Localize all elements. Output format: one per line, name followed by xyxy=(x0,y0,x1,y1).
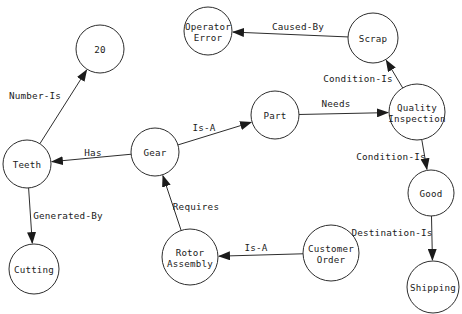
relation-arrow xyxy=(233,32,348,37)
edge-customer-order-to-rotor-assembly: Is-A xyxy=(219,242,303,257)
edge-quality-inspection-to-scrap: Condition-Is xyxy=(323,60,402,88)
relation-label: Condition-Is xyxy=(356,151,426,162)
concept-label: Good xyxy=(420,188,443,199)
node-gear: Gear xyxy=(131,128,179,176)
relation-label: Destination-Is xyxy=(351,227,432,238)
concept-label: Teeth xyxy=(13,159,42,170)
concept-label: 20 xyxy=(94,44,105,55)
concept-label: Cutting xyxy=(14,264,54,275)
concept-label: Part xyxy=(264,110,287,121)
edge-good-to-shipping: Destination-Is xyxy=(351,216,432,260)
relation-arrow xyxy=(431,216,432,260)
concept-label: Gear xyxy=(144,147,167,158)
node-twenty: 20 xyxy=(76,25,124,73)
node-cutting: Cutting xyxy=(9,244,59,294)
edge-part-to-quality-inspection: Needs xyxy=(299,98,388,115)
relation-arrow xyxy=(29,188,33,243)
relation-arrow xyxy=(40,70,87,144)
edge-teeth-to-twenty: Number-Is xyxy=(9,70,87,144)
concept-label: Scrap xyxy=(359,33,388,44)
relation-label: Is-A xyxy=(244,242,267,253)
edge-rotor-assembly-to-gear: Requires xyxy=(163,176,219,231)
node-teeth: Teeth xyxy=(3,140,51,188)
node-quality-inspection: QualityInspection xyxy=(388,84,445,140)
node-part: Part xyxy=(251,91,299,139)
node-scrap: Scrap xyxy=(348,13,398,63)
concept-label: Shipping xyxy=(410,282,456,293)
edge-gear-to-teeth: Has xyxy=(52,147,131,162)
relation-label: Caused-By xyxy=(272,21,324,32)
edge-gear-to-part: Is-A xyxy=(178,122,251,145)
node-customer-order: CustomerOrder xyxy=(303,225,359,281)
semantic-network-diagram: Number-IsHasIs-ANeedsCaused-ByCondition-… xyxy=(0,0,462,314)
node-rotor-assembly: RotorAssembly xyxy=(162,229,218,285)
diagram-canvas: Number-IsHasIs-ANeedsCaused-ByCondition-… xyxy=(0,0,462,314)
relation-arrow xyxy=(299,113,388,115)
node-shipping: Shipping xyxy=(407,261,459,313)
edge-teeth-to-cutting: Generated-By xyxy=(29,188,103,243)
relation-label: Has xyxy=(84,147,101,158)
relation-label: Is-A xyxy=(192,122,215,133)
relation-arrow xyxy=(219,254,303,256)
relation-label: Requires xyxy=(173,201,219,212)
relation-label: Number-Is xyxy=(9,90,61,101)
edge-quality-inspection-to-good: Condition-Is xyxy=(356,140,427,170)
node-good: Good xyxy=(408,170,454,216)
relation-label: Needs xyxy=(322,98,351,109)
node-operator-error: OperatorError xyxy=(184,7,232,55)
edge-scrap-to-operator-error: Caused-By xyxy=(233,21,348,37)
relation-label: Generated-By xyxy=(33,210,103,221)
relation-label: Condition-Is xyxy=(323,73,393,84)
